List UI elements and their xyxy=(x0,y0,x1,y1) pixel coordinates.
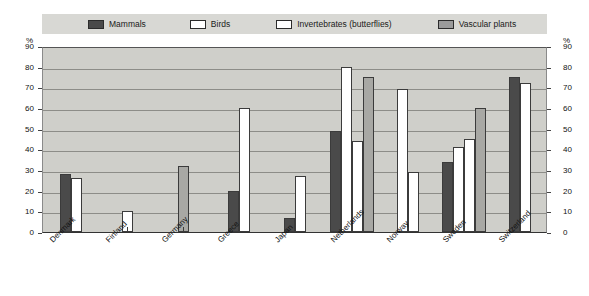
y-tick-label-left-80: 80 xyxy=(18,63,34,72)
y-tick-label-left-30: 30 xyxy=(18,166,34,175)
y-tick-mark-right-70 xyxy=(547,88,551,89)
bar-japan-birds[interactable] xyxy=(295,176,306,232)
y-tick-label-left-50: 50 xyxy=(18,125,34,134)
legend-swatch-vascular-plants-icon xyxy=(438,20,454,29)
y-tick-label-right-0: 0 xyxy=(563,228,579,237)
y-tick-label-right-60: 60 xyxy=(563,104,579,113)
y-tick-label-right-70: 70 xyxy=(563,83,579,92)
chart-page: Mammals Birds Invertebrates (butterflies… xyxy=(0,0,589,296)
bar-group-greece xyxy=(211,48,267,232)
x-tick-finland xyxy=(127,227,128,232)
bar-switzerland-mammals[interactable] xyxy=(509,77,520,232)
y-tick-mark-left-40 xyxy=(38,150,42,151)
bar-netherlands-vascular[interactable] xyxy=(363,77,374,232)
y-tick-mark-left-50 xyxy=(38,130,42,131)
y-tick-mark-left-30 xyxy=(38,171,42,172)
bar-group-netherlands xyxy=(324,48,380,232)
y-tick-mark-left-90 xyxy=(38,47,42,48)
bar-group-japan xyxy=(267,48,323,232)
legend-label-invertebrates: Invertebrates (butterflies) xyxy=(297,19,391,29)
y-tick-label-left-70: 70 xyxy=(18,83,34,92)
legend-swatch-birds-icon xyxy=(190,20,206,29)
legend-item-invertebrates: Invertebrates (butterflies) xyxy=(276,19,391,29)
bar-netherlands-birds[interactable] xyxy=(341,67,352,232)
legend-label-vascular-plants: Vascular plants xyxy=(459,19,516,29)
legend-item-mammals: Mammals xyxy=(88,19,146,29)
y-tick-mark-left-0 xyxy=(38,233,42,234)
chart-legend: Mammals Birds Invertebrates (butterflies… xyxy=(42,14,547,34)
y-tick-label-right-50: 50 xyxy=(563,125,579,134)
bar-group-switzerland xyxy=(492,48,548,232)
bar-group-germany xyxy=(155,48,211,232)
legend-item-vascular-plants: Vascular plants xyxy=(438,19,516,29)
x-tick-japan xyxy=(295,227,296,232)
legend-label-mammals: Mammals xyxy=(109,19,146,29)
y-tick-mark-left-10 xyxy=(38,212,42,213)
bar-group-finland xyxy=(99,48,155,232)
x-tick-switzerland xyxy=(520,227,521,232)
bar-sweden-vascular[interactable] xyxy=(475,108,486,232)
y-tick-label-left-0: 0 xyxy=(18,228,34,237)
bar-group-norway xyxy=(380,48,436,232)
bar-greece-birds[interactable] xyxy=(239,108,250,232)
legend-label-birds: Birds xyxy=(211,19,230,29)
bar-netherlands-mammals[interactable] xyxy=(330,131,341,232)
y-tick-mark-left-60 xyxy=(38,109,42,110)
y-tick-label-right-80: 80 xyxy=(563,63,579,72)
bar-group-denmark xyxy=(43,48,99,232)
x-tick-germany xyxy=(183,227,184,232)
legend-item-birds: Birds xyxy=(190,19,230,29)
y-tick-label-left-20: 20 xyxy=(18,187,34,196)
y-tick-label-left-40: 40 xyxy=(18,145,34,154)
y-tick-mark-right-20 xyxy=(547,192,551,193)
x-tick-denmark xyxy=(71,227,72,232)
y-tick-label-right-90: 90 xyxy=(563,42,579,51)
y-tick-mark-left-20 xyxy=(38,192,42,193)
plot-area xyxy=(42,47,547,233)
y-tick-mark-right-90 xyxy=(547,47,551,48)
bar-sweden-invertebrates[interactable] xyxy=(464,139,475,232)
y-tick-label-right-40: 40 xyxy=(563,145,579,154)
y-tick-label-right-30: 30 xyxy=(563,166,579,175)
y-tick-mark-right-0 xyxy=(547,233,551,234)
y-tick-mark-left-70 xyxy=(38,88,42,89)
x-tick-greece xyxy=(239,227,240,232)
bar-series-container xyxy=(43,48,546,232)
y-tick-label-right-20: 20 xyxy=(563,187,579,196)
legend-swatch-mammals-icon xyxy=(88,20,104,29)
y-tick-label-left-60: 60 xyxy=(18,104,34,113)
y-tick-mark-right-30 xyxy=(547,171,551,172)
y-tick-label-left-10: 10 xyxy=(18,207,34,216)
y-tick-mark-right-10 xyxy=(547,212,551,213)
legend-swatch-invertebrates-icon xyxy=(276,20,292,29)
y-tick-mark-left-80 xyxy=(38,68,42,69)
y-tick-label-right-10: 10 xyxy=(563,207,579,216)
bar-norway-birds[interactable] xyxy=(397,89,408,232)
y-tick-mark-right-60 xyxy=(547,109,551,110)
y-tick-label-left-90: 90 xyxy=(18,42,34,51)
bar-group-sweden xyxy=(436,48,492,232)
y-tick-mark-right-40 xyxy=(547,150,551,151)
y-tick-mark-right-80 xyxy=(547,68,551,69)
y-tick-mark-right-50 xyxy=(547,130,551,131)
bar-sweden-mammals[interactable] xyxy=(442,162,453,232)
